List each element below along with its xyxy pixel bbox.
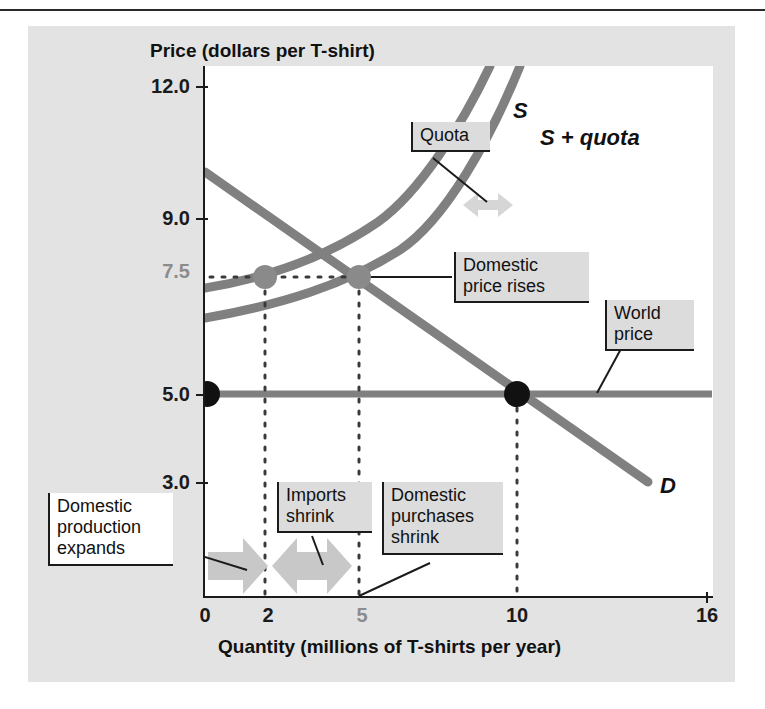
demand-curve bbox=[205, 172, 648, 482]
marker-world-price-origin bbox=[194, 381, 220, 407]
callout-domestic-price-rises: Domestic price rises bbox=[454, 252, 589, 303]
supply-plus-quota-curve-label: S + quota bbox=[540, 125, 640, 151]
quota-leader-line bbox=[433, 158, 487, 202]
supply-curve bbox=[205, 66, 490, 288]
callout-world-price: World price bbox=[605, 300, 694, 351]
imports-shrink-arrow bbox=[272, 538, 352, 594]
domestic-production-arrow bbox=[208, 538, 268, 594]
callout-quota: Quota bbox=[411, 122, 490, 152]
callout-domestic-purchases-shrink: Domestic purchases shrink bbox=[382, 482, 503, 555]
quota-gap-arrow bbox=[463, 193, 513, 217]
chart-graphics bbox=[0, 0, 765, 709]
demand-curve-label: D bbox=[660, 473, 676, 499]
callout-imports-shrink: Imports shrink bbox=[277, 482, 372, 533]
figure-root: 12.0 9.0 7.5 5.0 3.0 0 2 5 10 16 Price (… bbox=[0, 0, 765, 709]
marker-free-trade-quantity bbox=[504, 381, 530, 407]
marker-domestic-production bbox=[253, 265, 277, 289]
callout-domestic-production-expands: Domestic production expands bbox=[48, 493, 173, 566]
domestic-purchases-leader-line bbox=[359, 563, 430, 596]
world-price-leader-line bbox=[597, 347, 622, 393]
supply-curve-label: S bbox=[513, 98, 528, 124]
marker-quota-equilibrium bbox=[347, 265, 371, 289]
